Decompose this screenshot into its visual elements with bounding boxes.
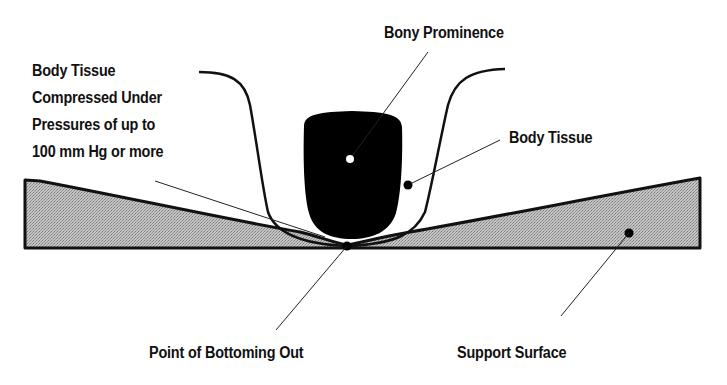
label-compressed-tissue: Body Tissue Compressed Under Pressures o… — [32, 57, 163, 165]
bony-prominence-shape — [304, 111, 403, 239]
body-tissue-marker — [404, 181, 413, 190]
label-bony-prominence: Bony Prominence — [384, 19, 504, 46]
bony-prominence-marker — [346, 155, 354, 163]
label-point-of-bottoming-out: Point of Bottoming Out — [149, 339, 303, 366]
leader-body-tissue — [408, 140, 500, 185]
label-support-surface: Support Surface — [457, 339, 566, 366]
label-body-tissue: Body Tissue — [509, 124, 592, 151]
leader-bottoming-out — [276, 246, 347, 330]
